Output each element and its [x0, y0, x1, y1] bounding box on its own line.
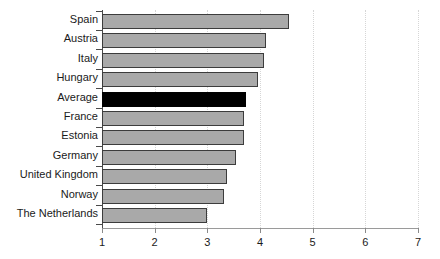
x-tick-4 — [260, 228, 261, 233]
bar-row — [102, 51, 418, 70]
gridline-7 — [418, 10, 420, 228]
bar-row — [102, 90, 418, 109]
bar-norway — [102, 189, 224, 204]
bar-row — [102, 12, 418, 31]
x-axis-label-6: 6 — [362, 236, 368, 248]
bar-united-kingdom — [102, 169, 227, 184]
category-label-estonia: Estonia — [2, 129, 98, 141]
category-label-austria: Austria — [2, 32, 98, 44]
x-tick-2 — [155, 228, 156, 233]
category-label-the-netherlands: The Netherlands — [2, 207, 98, 219]
category-label-united-kingdom: United Kingdom — [2, 168, 98, 180]
category-label-norway: Norway — [2, 188, 98, 200]
bar-row — [102, 128, 418, 147]
bar-row — [102, 187, 418, 206]
x-tick-3 — [207, 228, 208, 233]
bar-estonia — [102, 130, 244, 145]
bar-france — [102, 111, 244, 126]
bar-hungary — [102, 72, 258, 87]
category-label-hungary: Hungary — [2, 71, 98, 83]
x-tick-6 — [365, 228, 366, 233]
bar-row — [102, 109, 418, 128]
x-tick-7 — [418, 228, 419, 233]
bar-row — [102, 31, 418, 50]
x-axis-label-1: 1 — [99, 236, 105, 248]
bar-austria — [102, 33, 266, 48]
category-label-france: France — [2, 110, 98, 122]
category-label-germany: Germany — [2, 149, 98, 161]
plot-area — [102, 10, 418, 228]
bar-series — [102, 12, 418, 225]
x-axis-label-2: 2 — [152, 236, 158, 248]
x-axis-label-4: 4 — [257, 236, 263, 248]
category-label-spain: Spain — [2, 13, 98, 25]
bar-spain — [102, 14, 289, 29]
category-label-italy: Italy — [2, 52, 98, 64]
bar-row — [102, 70, 418, 89]
bar-row — [102, 167, 418, 186]
bar-germany — [102, 150, 236, 165]
bar-row — [102, 206, 418, 225]
x-axis-label-7: 7 — [415, 236, 421, 248]
bar-average — [102, 92, 246, 107]
bar-chart: SpainAustriaItalyHungaryAverageFranceEst… — [0, 0, 440, 259]
x-tick-5 — [313, 228, 314, 233]
bar-italy — [102, 53, 264, 68]
bar-the-netherlands — [102, 208, 207, 223]
x-axis-label-5: 5 — [310, 236, 316, 248]
category-axis-labels: SpainAustriaItalyHungaryAverageFranceEst… — [0, 10, 98, 228]
category-label-average: Average — [2, 91, 98, 103]
x-axis-label-3: 3 — [204, 236, 210, 248]
bar-row — [102, 148, 418, 167]
x-tick-1 — [102, 228, 103, 233]
